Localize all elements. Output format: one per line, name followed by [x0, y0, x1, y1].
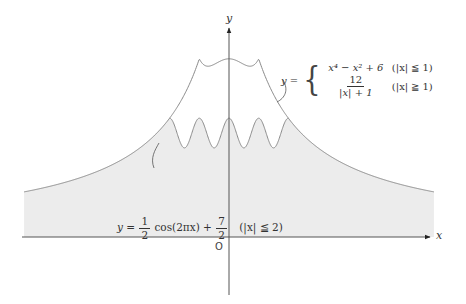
- x-axis-label: x: [436, 229, 442, 242]
- case-row: x⁴ − x² + 6 (|x| ≦ 1): [326, 62, 433, 73]
- case-row: 12 |x| + 1 (|x| ≧ 1): [326, 75, 433, 98]
- function-graph: [0, 0, 466, 304]
- origin-label: O: [215, 241, 223, 252]
- case-expression: x⁴ − x² + 6: [326, 62, 386, 73]
- constant-fraction: 7 2: [216, 216, 227, 240]
- left-brace-icon: {: [303, 61, 320, 95]
- lower-prefix: y =: [117, 221, 135, 233]
- piecewise-equation-label: y = { x⁴ − x² + 6 (|x| ≦ 1) 12 |x| + 1 (…: [281, 62, 433, 98]
- denominator: 2: [216, 229, 227, 241]
- denominator: 2: [139, 229, 150, 241]
- upper-prefix: y =: [281, 75, 298, 86]
- coefficient-fraction: 1 2: [139, 216, 150, 240]
- case-condition: (|x| ≦ 1): [392, 62, 433, 73]
- case-condition: (|x| ≧ 1): [392, 81, 433, 92]
- fraction: 12 |x| + 1: [337, 75, 374, 98]
- numerator: 12: [347, 75, 364, 87]
- cosine-equation-label: y = 1 2 cos(2πx) + 7 2 (|x| ≦ 2): [117, 216, 283, 240]
- y-axis-label: y: [226, 12, 232, 25]
- numerator: 1: [139, 216, 150, 229]
- denominator: |x| + 1: [337, 87, 374, 98]
- condition-text: (|x| ≦ 2): [239, 221, 283, 233]
- function-text: cos(2πx) +: [154, 221, 211, 233]
- numerator: 7: [216, 216, 227, 229]
- cases-list: x⁴ − x² + 6 (|x| ≦ 1) 12 |x| + 1 (|x| ≧ …: [326, 62, 433, 98]
- case-expression: 12 |x| + 1: [326, 75, 386, 98]
